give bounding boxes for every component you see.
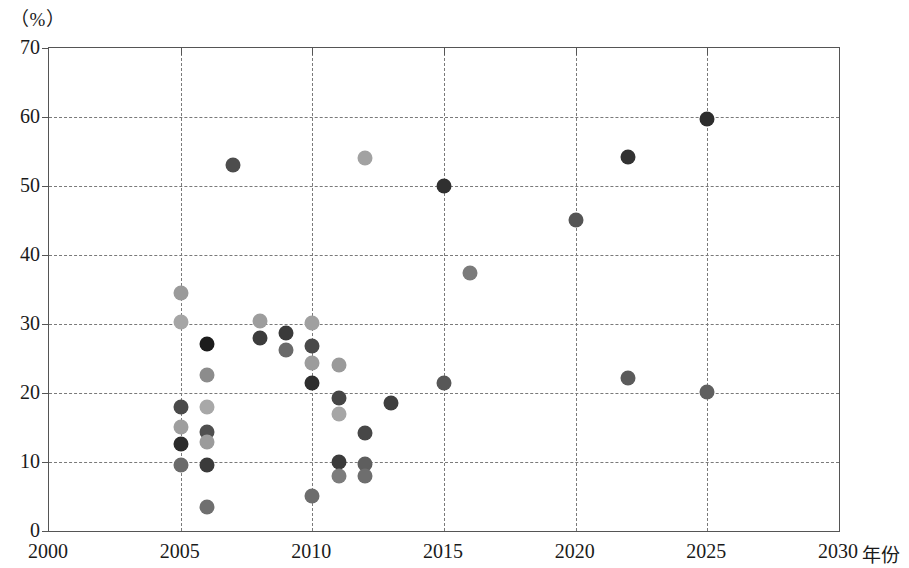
data-point (200, 434, 215, 449)
data-point (437, 375, 452, 390)
data-point (331, 357, 346, 372)
y-tick-label: 20 (0, 381, 40, 404)
data-point (621, 370, 636, 385)
data-point (331, 469, 346, 484)
gridline-vertical (312, 48, 313, 531)
data-point (305, 488, 320, 503)
data-point (305, 339, 320, 354)
y-tick-label: 70 (0, 36, 40, 59)
y-tick-mark (42, 324, 49, 325)
plot-area (48, 47, 840, 532)
data-point (331, 406, 346, 421)
y-tick-label: 0 (0, 519, 40, 542)
data-point (279, 325, 294, 340)
y-tick-label: 30 (0, 312, 40, 335)
data-point (358, 469, 373, 484)
y-tick-mark (42, 255, 49, 256)
data-point (173, 419, 188, 434)
data-point (305, 315, 320, 330)
data-point (437, 179, 452, 194)
data-point (200, 499, 215, 514)
data-point (358, 150, 373, 165)
scatter-chart: （%） 010203040506070 20002005201020152020… (0, 0, 909, 568)
x-tick-label: 2020 (555, 540, 595, 563)
data-point (700, 385, 715, 400)
x-tick-label: 2000 (28, 540, 68, 563)
x-tick-mark (707, 48, 708, 55)
y-tick-mark (42, 48, 49, 49)
data-point (305, 375, 320, 390)
y-tick-mark (42, 186, 49, 187)
data-point (173, 457, 188, 472)
gridline-vertical (576, 48, 577, 531)
data-point (252, 313, 267, 328)
data-point (331, 455, 346, 470)
x-tick-mark (181, 48, 182, 55)
y-tick-mark (42, 462, 49, 463)
x-tick-mark (312, 48, 313, 55)
x-tick-mark (444, 48, 445, 55)
data-point (331, 390, 346, 405)
y-tick-label: 60 (0, 105, 40, 128)
y-tick-label: 50 (0, 174, 40, 197)
y-tick-label: 10 (0, 450, 40, 473)
x-tick-label: 2005 (160, 540, 200, 563)
data-point (463, 265, 478, 280)
data-point (200, 337, 215, 352)
data-point (568, 212, 583, 227)
data-point (384, 396, 399, 411)
y-tick-mark (42, 393, 49, 394)
data-point (173, 285, 188, 300)
data-point (700, 112, 715, 127)
gridline-vertical (444, 48, 445, 531)
data-point (173, 314, 188, 329)
y-tick-label: 40 (0, 243, 40, 266)
x-axis-tick-labels: 2000200520102015202020252030 (0, 540, 909, 568)
y-tick-mark (42, 531, 49, 532)
x-tick-mark (576, 48, 577, 55)
x-tick-label: 2010 (291, 540, 331, 563)
data-point (200, 368, 215, 383)
data-point (173, 437, 188, 452)
x-tick-label: 2025 (686, 540, 726, 563)
data-point (200, 457, 215, 472)
data-point (358, 426, 373, 441)
data-point (279, 343, 294, 358)
data-point (621, 150, 636, 165)
y-axis-unit-label: （%） (10, 4, 65, 31)
data-point (173, 399, 188, 414)
x-tick-label: 2030 (818, 540, 858, 563)
y-axis-tick-labels: 010203040506070 (0, 47, 40, 532)
x-axis-title: 年份 (862, 540, 900, 567)
data-point (252, 330, 267, 345)
data-point (226, 158, 241, 173)
y-tick-mark (42, 117, 49, 118)
data-point (200, 400, 215, 415)
x-tick-label: 2015 (423, 540, 463, 563)
data-point (305, 355, 320, 370)
